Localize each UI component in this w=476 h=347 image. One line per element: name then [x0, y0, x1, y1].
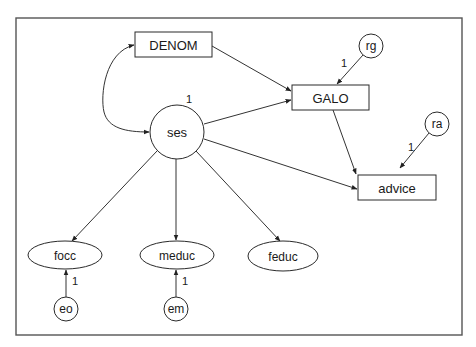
ra-loading-label: 1	[408, 141, 414, 153]
node-eo: eo	[54, 297, 78, 321]
eo-loading-label: 1	[72, 275, 78, 287]
node-ra: ra	[425, 112, 449, 136]
node-feduc: feduc	[248, 241, 318, 271]
node-ses: ses	[150, 105, 204, 159]
node-focc: focc	[28, 241, 102, 269]
node-em: em	[164, 297, 188, 321]
focc-label: focc	[54, 249, 76, 263]
rg-label: rg	[366, 39, 377, 53]
node-rg: rg	[359, 34, 383, 58]
feduc-label: feduc	[268, 250, 297, 264]
eo-label: eo	[59, 302, 73, 316]
meduc-label: meduc	[159, 249, 195, 263]
rg-loading-label: 1	[341, 57, 347, 69]
em-loading-label: 1	[182, 275, 188, 287]
node-galo: GALO	[292, 85, 369, 110]
path-diagram: DENOM GALO advice ses 1 rg 1 ra 1 focc m…	[0, 0, 476, 347]
node-advice: advice	[358, 175, 436, 200]
ses-variance-label: 1	[186, 93, 192, 105]
denom-label: DENOM	[149, 38, 197, 53]
em-label: em	[168, 302, 185, 316]
ses-label: ses	[167, 125, 188, 140]
ra-label: ra	[432, 117, 443, 131]
advice-label: advice	[378, 181, 416, 196]
galo-label: GALO	[312, 91, 348, 106]
node-denom: DENOM	[135, 32, 212, 57]
node-meduc: meduc	[140, 241, 214, 269]
